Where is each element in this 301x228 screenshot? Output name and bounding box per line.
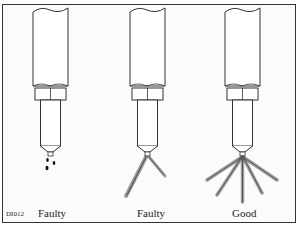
injector-faulty-dripping xyxy=(33,8,68,170)
injector-faulty-uneven xyxy=(126,8,165,196)
spray-jets xyxy=(126,157,165,196)
spray-fan xyxy=(207,157,277,202)
injector-diagram xyxy=(0,0,301,228)
figure-code: DI012 xyxy=(6,210,24,218)
drip-drops xyxy=(46,158,56,170)
caption-faulty-1: Faulty xyxy=(38,207,66,219)
caption-good: Good xyxy=(232,207,256,219)
injector-good xyxy=(207,8,277,202)
caption-faulty-2: Faulty xyxy=(137,207,165,219)
